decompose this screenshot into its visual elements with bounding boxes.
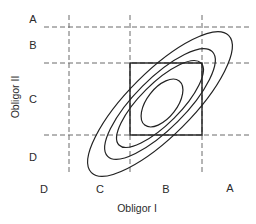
y-grade-label-a: A	[29, 13, 37, 25]
x-axis-title: Obligor I	[117, 202, 157, 214]
x-grade-label-d: D	[40, 183, 48, 195]
y-grade-label-d: D	[29, 151, 37, 163]
y-grade-label-b: B	[29, 39, 36, 51]
contour-ellipse-outer	[69, 13, 251, 195]
x-grade-label-a: A	[226, 182, 234, 194]
contour-ellipse-second	[90, 34, 230, 174]
contour-ellipse-inner	[133, 72, 191, 135]
joint-distribution-diagram: A B C D D C B A Obligor I Obligor II	[0, 0, 256, 224]
y-grade-label-c: C	[29, 93, 37, 105]
contour-ellipse-third	[105, 49, 215, 159]
x-grade-label-b: B	[162, 183, 169, 195]
x-grade-label-c: C	[96, 183, 104, 195]
y-axis-title: Obligor II	[9, 76, 21, 119]
